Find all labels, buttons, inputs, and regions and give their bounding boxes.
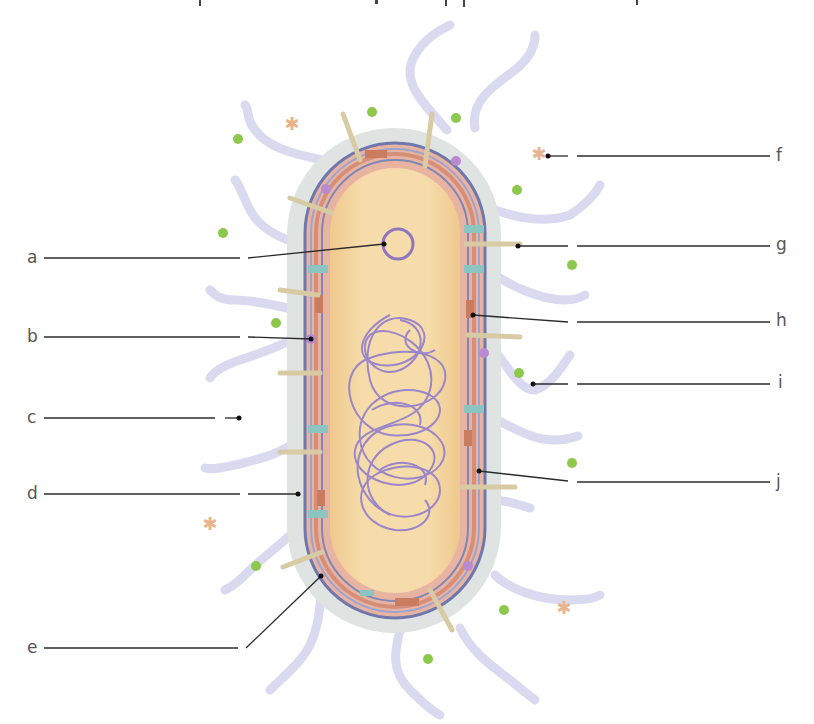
cell-diagram: ✱ ✱ ✱ ✱	[0, 0, 814, 724]
cropped-heading-descenders	[199, 0, 638, 7]
label-b: b	[27, 328, 38, 345]
svg-text:✱: ✱	[556, 597, 571, 618]
label-j: j	[776, 473, 781, 490]
label-e: e	[27, 639, 37, 656]
label-f: f	[776, 147, 782, 164]
svg-text:✱: ✱	[531, 143, 546, 164]
label-g: g	[776, 236, 787, 253]
cell-diagram-svg: ✱ ✱ ✱ ✱	[0, 0, 814, 724]
label-h: h	[776, 312, 787, 329]
label-d: d	[27, 485, 38, 502]
svg-text:✱: ✱	[202, 513, 217, 534]
label-a: a	[27, 249, 37, 266]
svg-text:✱: ✱	[284, 113, 299, 134]
label-i: i	[778, 374, 783, 391]
label-c: c	[27, 409, 36, 426]
